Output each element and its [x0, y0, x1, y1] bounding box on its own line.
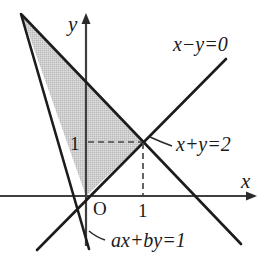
y-tick-label-1: 1 [70, 133, 80, 154]
origin-label: O [93, 198, 107, 219]
label-x-plus-y-equals-2: x+y=2 [175, 133, 231, 156]
coordinate-diagram: y x O 1 1 x−y=0 x+y=2 ax+by=1 [0, 0, 278, 271]
leader-line-x-plus-y [150, 137, 172, 146]
y-axis-label: y [66, 12, 78, 36]
leader-line-ax-plus-by [89, 231, 105, 240]
label-ax-plus-by-equals-1: ax+by=1 [111, 229, 186, 252]
figure-root: y x O 1 1 x−y=0 x+y=2 ax+by=1 [0, 0, 278, 271]
x-axis [0, 192, 257, 201]
shaded-feasible-region [22, 15, 143, 196]
x-tick-label-1: 1 [138, 200, 148, 221]
x-axis-label: x [240, 169, 251, 193]
label-x-minus-y-equals-0: x−y=0 [172, 33, 228, 56]
